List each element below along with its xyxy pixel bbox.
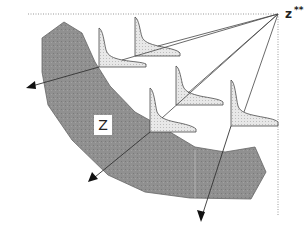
feasible-region-label: Z [94,115,112,135]
pareto-front-2 [135,17,180,56]
ideal-point-superscript: ** [294,5,303,15]
ideal-point-letter: z [285,7,292,21]
pareto-front-5 [231,80,278,126]
ideal-point-label: z** [285,5,303,21]
diagram-canvas [0,0,305,237]
